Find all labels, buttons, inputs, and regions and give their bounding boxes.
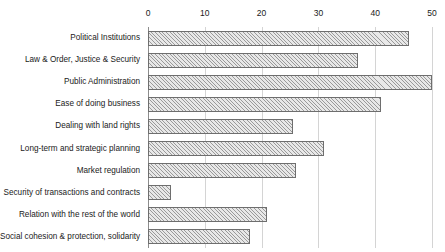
bar[interactable] <box>148 163 296 178</box>
bar[interactable] <box>148 119 293 134</box>
category-label: Public Administration <box>0 77 144 87</box>
category-label: Relation with the rest of the world <box>0 210 144 220</box>
x-tick-label: 0 <box>146 8 151 19</box>
bar-row <box>148 182 432 204</box>
bar[interactable] <box>148 75 432 90</box>
bar[interactable] <box>148 229 250 244</box>
x-tick-label: 20 <box>257 8 266 19</box>
category-label: Dealing with land rights <box>0 121 144 131</box>
bar[interactable] <box>148 97 381 112</box>
bar-row <box>148 226 432 248</box>
category-labels: Political InstitutionsLaw & Order, Justi… <box>0 27 144 248</box>
bar-row <box>148 71 432 93</box>
category-label: Security of transactions and contracts <box>0 188 144 198</box>
x-tick-label: 30 <box>314 8 323 19</box>
bar-row <box>148 160 432 182</box>
x-tick-label: 50 <box>427 8 436 19</box>
bar[interactable] <box>148 31 409 46</box>
bar[interactable] <box>148 53 358 68</box>
gridline <box>432 27 433 248</box>
category-label: Market regulation <box>0 166 144 176</box>
category-label: Social cohesion & protection, solidarity <box>0 232 144 242</box>
bar-rows <box>148 27 432 248</box>
x-tick-label: 10 <box>200 8 209 19</box>
bar-row <box>148 93 432 115</box>
category-label: Law & Order, Justice & Security <box>0 55 144 65</box>
bar-row <box>148 27 432 49</box>
bar-row <box>148 115 432 137</box>
x-tick-label: 40 <box>370 8 379 19</box>
bar[interactable] <box>148 141 324 156</box>
bar-row <box>148 49 432 71</box>
x-axis-tick-labels: 01020304050 <box>148 8 432 24</box>
bar-row <box>148 138 432 160</box>
category-label: Ease of doing business <box>0 99 144 109</box>
bar-row <box>148 204 432 226</box>
bar[interactable] <box>148 207 267 222</box>
plot-area <box>148 27 432 248</box>
bar[interactable] <box>148 185 171 200</box>
category-label: Long-term and strategic planning <box>0 144 144 154</box>
category-label: Political Institutions <box>0 33 144 43</box>
bar-chart: 01020304050 Political InstitutionsLaw & … <box>0 0 445 252</box>
